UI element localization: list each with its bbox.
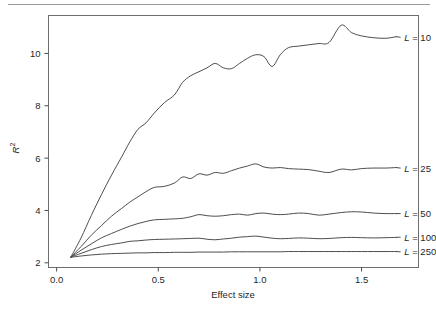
- y-axis-ticks: 246810: [30, 48, 49, 268]
- x-tick-label: 0.5: [152, 274, 165, 285]
- x-axis-title: Effect size: [211, 289, 255, 300]
- series-labels-group: L = 10L = 25L = 50L = 100L = 250: [396, 32, 436, 258]
- data-series-group: [71, 25, 396, 257]
- series-leader-0: [396, 37, 400, 38]
- series-label-0: L = 10: [404, 32, 431, 43]
- axis-titles-group: Effect size R2: [9, 143, 255, 300]
- y-tick-label: 8: [35, 100, 40, 111]
- series-label-3: L = 100: [404, 232, 436, 243]
- series-line-0: [71, 25, 396, 257]
- x-tick-label: 1.5: [355, 274, 368, 285]
- series-label-value: = 100: [410, 232, 436, 243]
- series-label-2: L = 50: [404, 208, 431, 219]
- series-label-value: = 250: [410, 246, 436, 257]
- y-tick-label: 10: [30, 48, 41, 59]
- series-line-3: [71, 236, 396, 257]
- series-leader-1: [396, 168, 400, 169]
- x-tick-label: 1.0: [253, 274, 266, 285]
- plot-frame: [49, 16, 419, 268]
- series-label-value: = 10: [410, 32, 431, 43]
- series-label-1: L = 25: [404, 163, 431, 174]
- y-tick-label: 2: [35, 257, 40, 268]
- series-label-value: = 50: [410, 208, 431, 219]
- y-axis-title: R2: [9, 143, 21, 154]
- series-line-2: [71, 212, 396, 257]
- series-label-4: L = 250: [404, 246, 436, 257]
- y-tick-label: 4: [35, 205, 40, 216]
- y-tick-label: 6: [35, 153, 40, 164]
- figure-container: 0.00.51.01.5 246810 L = 10L = 25L = 50L …: [0, 0, 436, 310]
- y-axis-title-text: R2: [9, 143, 21, 154]
- series-label-value: = 25: [410, 163, 431, 174]
- series-line-4: [71, 252, 396, 258]
- chart-plot: 0.00.51.01.5 246810 L = 10L = 25L = 50L …: [0, 0, 436, 310]
- x-axis-ticks: 0.00.51.01.5: [50, 268, 368, 285]
- x-tick-label: 0.0: [50, 274, 63, 285]
